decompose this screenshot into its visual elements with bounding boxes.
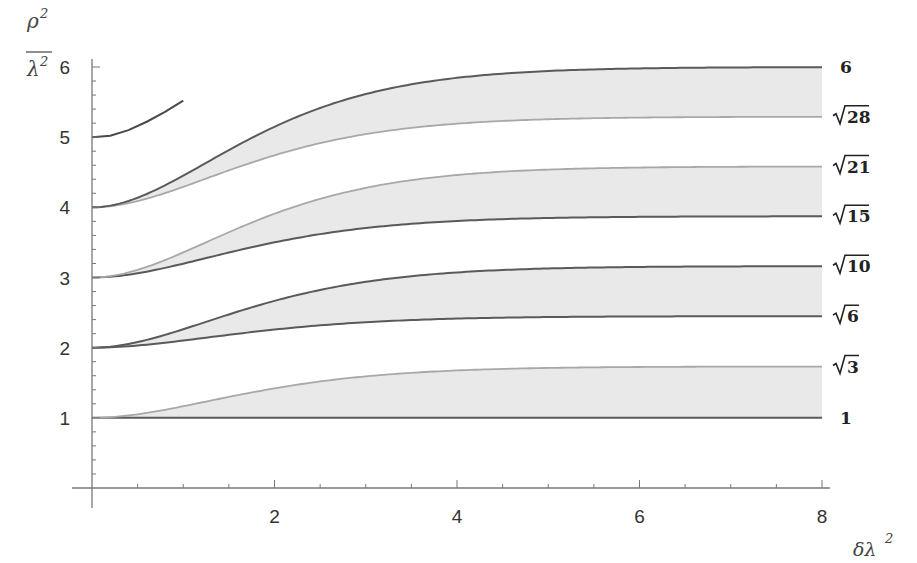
x-title-base: δλ — [853, 538, 876, 560]
curve-labels-layer: 136101521286 — [833, 57, 871, 428]
x-tick-label: 2 — [269, 506, 280, 527]
curve-n5-start — [92, 101, 183, 137]
x-axis-title: δλ 2 — [853, 531, 893, 560]
curve-label-sqrt21: 21 — [833, 156, 871, 177]
curve-label-text: 1 — [840, 408, 852, 428]
curve-label-text: 21 — [847, 157, 871, 177]
x-title-exp: 2 — [884, 531, 893, 546]
band-sqrt6-sqrt10 — [92, 266, 822, 347]
x-tick-label: 6 — [634, 506, 645, 527]
curve-label-sqrt6: 6 — [833, 305, 859, 326]
chart: 2468123456 136101521286 ρ 2 λ 2 δλ 2 — [0, 0, 917, 563]
curve-label-6: 6 — [840, 57, 852, 77]
bands-layer — [92, 67, 822, 418]
curve-label-sqrt3: 3 — [833, 356, 859, 377]
band-1-sqrt3 — [92, 367, 822, 418]
curve-label-text: 28 — [847, 107, 871, 127]
x-tick-label: 4 — [452, 506, 463, 527]
curve-label-text: 3 — [847, 357, 859, 377]
curve-label-text: 10 — [847, 256, 871, 276]
y-axis-title: ρ 2 λ 2 — [26, 6, 52, 81]
curve-label-text: 15 — [847, 206, 871, 226]
curve-label-sqrt28: 28 — [833, 106, 871, 127]
y-tick-label: 2 — [59, 338, 70, 359]
y-title-denominator: λ — [26, 57, 40, 81]
x-tick-label: 8 — [817, 506, 828, 527]
y-tick-label: 3 — [59, 268, 70, 289]
curve-label-text: 6 — [840, 57, 852, 77]
y-tick-label: 5 — [59, 127, 70, 148]
curve-label-1: 1 — [840, 408, 852, 428]
y-title-numerator-exp: 2 — [39, 6, 48, 21]
curve-label-text: 6 — [847, 306, 859, 326]
curve-label-sqrt10: 10 — [833, 255, 871, 276]
y-tick-label: 6 — [59, 57, 70, 78]
y-tick-label: 4 — [59, 197, 70, 218]
band-sqrt15-sqrt21 — [92, 167, 822, 278]
y-title-denominator-exp: 2 — [39, 54, 48, 69]
curve-label-sqrt15: 15 — [833, 205, 871, 226]
y-tick-label: 1 — [59, 408, 70, 429]
y-title-numerator: ρ — [26, 9, 39, 33]
